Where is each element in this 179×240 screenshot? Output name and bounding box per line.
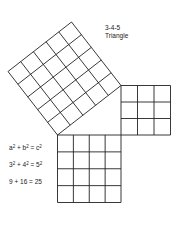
equation-general: a2 + b2 = c2 <box>9 144 42 151</box>
leg-square-4x4 <box>58 135 122 203</box>
equation-result: 9 + 16 = 25 <box>9 178 42 185</box>
diagram-title: 3-4-5 Triangle <box>105 24 128 39</box>
title-line-1: 3-4-5 <box>105 24 128 32</box>
equation-numeric: 32 + 42 = 52 <box>9 161 42 168</box>
title-line-2: Triangle <box>105 32 128 40</box>
leg-square-3x3 <box>121 86 171 136</box>
